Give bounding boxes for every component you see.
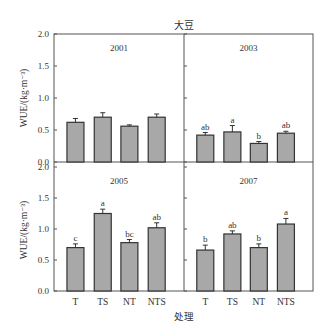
wue-bar-chart: 大豆 0.00.51.01.52.020012003ababab0.00.51.… xyxy=(0,0,331,336)
bar-T xyxy=(197,250,214,291)
significance-label: a xyxy=(101,198,105,208)
significance-label: b xyxy=(257,131,262,141)
panel-2005: 0.00.51.01.52.02005cTaTSbcNTabNTS xyxy=(38,162,166,307)
bar-NTS xyxy=(277,224,294,291)
bar-NT xyxy=(250,143,267,162)
bar-T xyxy=(67,122,84,162)
y-tick-label: 0.5 xyxy=(38,255,50,265)
significance-label: ab xyxy=(228,220,237,230)
panel-year-label: 2007 xyxy=(240,176,259,186)
chart-title: 大豆 xyxy=(174,19,194,31)
panel-year-label: 2001 xyxy=(110,43,128,53)
significance-label: a xyxy=(230,115,234,125)
panels: 0.00.51.01.52.020012003ababab0.00.51.01.… xyxy=(38,29,313,307)
significance-label: ab xyxy=(282,120,291,130)
panel-2003: 2003ababab xyxy=(184,34,294,162)
y-tick-label: 2.0 xyxy=(38,162,50,172)
panel-year-label: 2005 xyxy=(110,176,129,186)
y-tick-label: 1.5 xyxy=(38,61,50,71)
bar-NTS xyxy=(277,133,294,162)
y-axis-title-bottom: WUE/(kg·m⁻³) xyxy=(19,201,30,260)
bar-NT xyxy=(121,126,138,162)
y-tick-label: 0.0 xyxy=(38,286,50,296)
x-category-label: NT xyxy=(252,297,265,307)
significance-label: ab xyxy=(201,122,210,132)
bar-NT xyxy=(250,248,267,291)
y-tick-label: 1.0 xyxy=(38,93,50,103)
y-tick-label: 0.5 xyxy=(38,125,50,135)
bar-TS xyxy=(94,117,111,162)
panel-2001: 0.00.51.01.52.02001 xyxy=(38,29,165,167)
significance-label: b xyxy=(203,234,208,244)
significance-label: a xyxy=(284,207,288,217)
y-axis-title-top: WUE/(kg·m⁻³) xyxy=(19,69,30,128)
significance-label: bc xyxy=(125,229,134,239)
x-category-label: NT xyxy=(123,297,136,307)
x-category-label: TS xyxy=(97,297,108,307)
y-tick-label: 2.0 xyxy=(38,29,50,39)
significance-label: ab xyxy=(152,212,161,222)
bar-TS xyxy=(224,132,241,162)
bar-T xyxy=(197,135,214,162)
x-category-label: T xyxy=(73,297,79,307)
x-category-label: NTS xyxy=(148,297,166,307)
panel-2007: 2007bTabTSbNTaNTS xyxy=(184,167,295,307)
significance-label: c xyxy=(73,233,77,243)
significance-label: b xyxy=(257,233,262,243)
x-axis-title: 处理 xyxy=(174,311,194,322)
y-tick-label: 1.0 xyxy=(38,224,50,234)
bar-NT xyxy=(121,243,138,291)
bar-NTS xyxy=(148,228,165,291)
x-category-label: TS xyxy=(227,297,238,307)
panel-year-label: 2003 xyxy=(240,43,259,53)
x-category-label: T xyxy=(202,297,208,307)
bar-T xyxy=(67,248,84,291)
x-category-label: NTS xyxy=(277,297,295,307)
bar-NTS xyxy=(148,117,165,162)
y-tick-label: 1.5 xyxy=(38,193,50,203)
bar-TS xyxy=(94,214,111,292)
bar-TS xyxy=(224,234,241,291)
